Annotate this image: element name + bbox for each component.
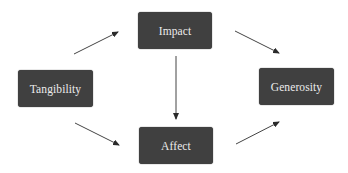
edge-impact-to-generosity <box>235 31 279 53</box>
edge-affect-to-generosity <box>236 122 279 144</box>
node-affect: Affect <box>139 127 213 164</box>
node-label-tangibility: Tangibility <box>30 83 81 95</box>
node-label-affect: Affect <box>161 140 191 152</box>
node-tangibility: Tangibility <box>18 70 93 107</box>
edge-tangibility-to-impact <box>74 32 118 54</box>
node-generosity: Generosity <box>259 68 334 105</box>
node-label-impact: Impact <box>159 25 192 37</box>
edge-tangibility-to-affect <box>75 123 119 145</box>
node-label-generosity: Generosity <box>271 81 322 93</box>
node-impact: Impact <box>138 12 212 49</box>
